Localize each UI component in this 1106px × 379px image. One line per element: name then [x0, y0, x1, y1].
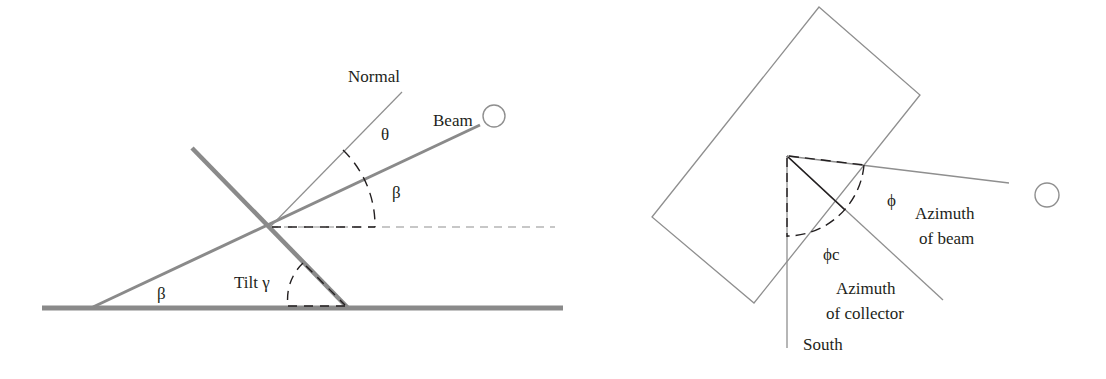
- azimuth-beam-label-2: of beam: [919, 229, 974, 248]
- tilt-diagram: Normal Beam θ β β Tilt γ: [42, 67, 563, 308]
- sun-icon: [483, 105, 505, 127]
- tilt-arc: [288, 263, 303, 306]
- azimuth-arc: [787, 165, 864, 236]
- theta-label: θ: [381, 125, 389, 144]
- collector-rectangle: [652, 7, 920, 303]
- beam-line: [93, 125, 480, 307]
- south-label: South: [803, 335, 843, 354]
- tilt-label: Tilt γ: [234, 273, 270, 292]
- phi-c-label: ϕc: [823, 245, 840, 264]
- azimuth-diagram: ϕ Azimuth of beam ϕc Azimuth of collecto…: [652, 7, 1059, 354]
- collector-azimuth-dark: [787, 156, 845, 210]
- beam-azimuth-line: [787, 156, 1009, 183]
- azimuth-collector-label-1: Azimuth: [836, 279, 896, 298]
- azimuth-collector-label-2: of collector: [826, 304, 904, 323]
- normal-line: [270, 92, 402, 227]
- diagram-canvas: Normal Beam θ β β Tilt γ ϕ Azimuth of be…: [0, 0, 1106, 379]
- phi-label: ϕ: [887, 191, 896, 210]
- azimuth-beam-label-1: Azimuth: [915, 204, 975, 223]
- beta-upper-label: β: [392, 183, 401, 202]
- beam-label: Beam: [433, 111, 473, 130]
- beta-lower-label: β: [157, 284, 166, 303]
- normal-label: Normal: [348, 67, 400, 86]
- sun-icon: [1035, 183, 1059, 207]
